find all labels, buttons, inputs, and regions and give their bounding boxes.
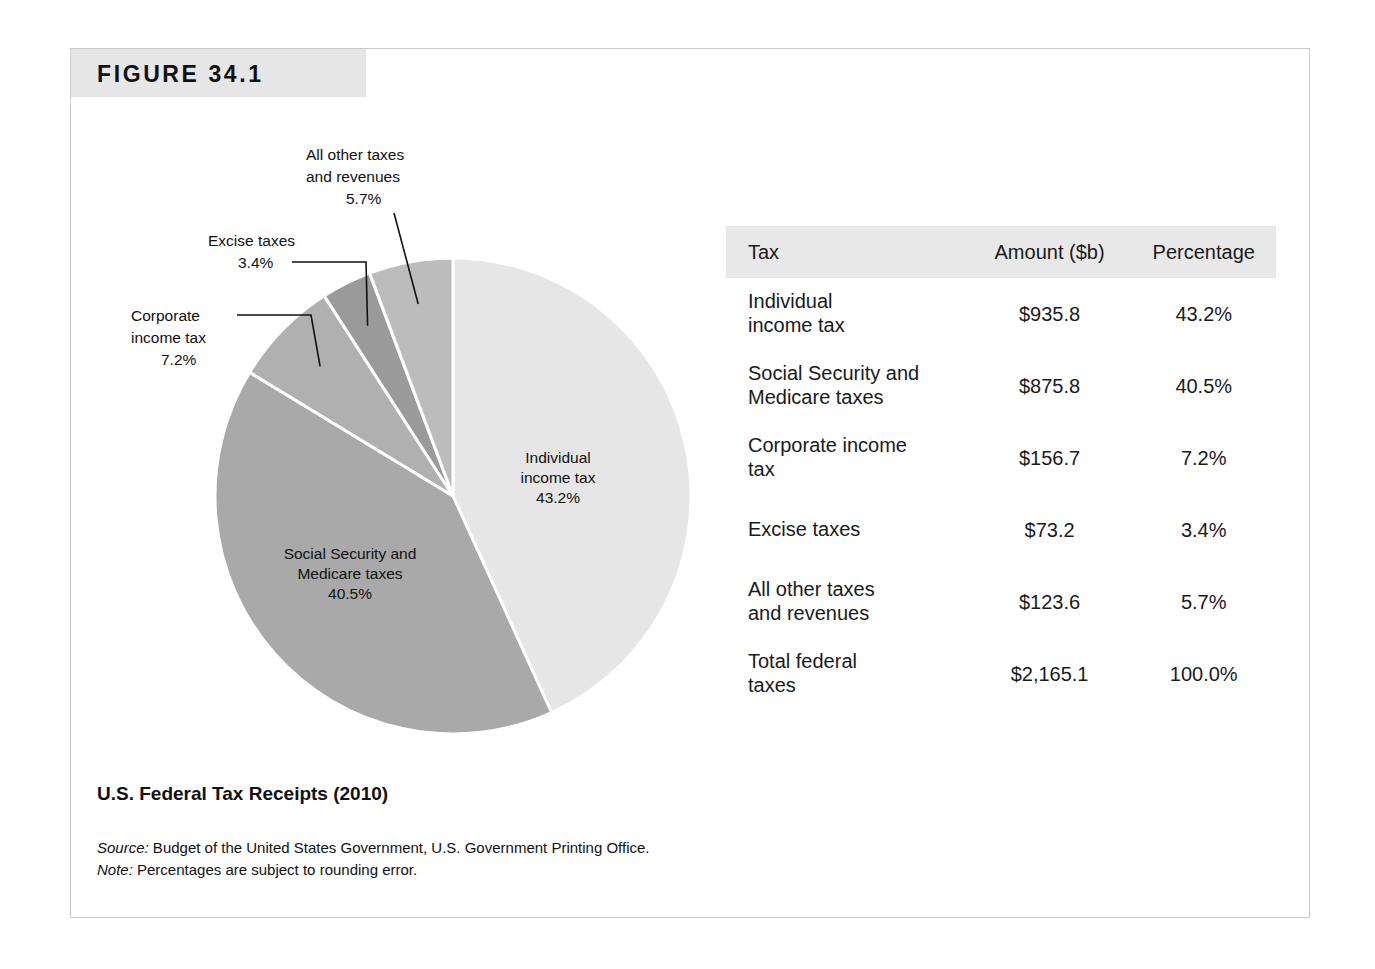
table-cell-amount: $73.2 xyxy=(968,519,1132,542)
table-cell-tax: All other taxesand revenues xyxy=(726,578,968,625)
table-cell-amount: $156.7 xyxy=(968,447,1132,470)
table-cell-percentage: 40.5% xyxy=(1131,375,1276,398)
table-cell-tax-line2: income tax xyxy=(748,314,968,338)
pie-label-social-line3: 40.5% xyxy=(328,585,372,602)
pie-label-social-line2: Medicare taxes xyxy=(297,565,402,582)
pie-callout-excise-line2: 3.4% xyxy=(238,254,274,271)
pie-callout-corporate-line2: income tax xyxy=(131,329,206,346)
table-cell-amount: $935.8 xyxy=(968,303,1132,326)
table-cell-tax: Corporate incometax xyxy=(726,434,968,481)
table-cell-percentage: 5.7% xyxy=(1131,591,1276,614)
table-cell-tax-line2: tax xyxy=(748,458,968,482)
figure-panel: FIGURE 34.1 Individual income tax 43.2% … xyxy=(70,48,1310,918)
tax-table: Tax Amount ($b) Percentage Individualinc… xyxy=(726,226,1276,710)
table-row: Individualincome tax$935.843.2% xyxy=(726,278,1276,350)
table-row: All other taxesand revenues$123.65.7% xyxy=(726,566,1276,638)
table-row: Corporate incometax$156.77.2% xyxy=(726,422,1276,494)
figure-caption: U.S. Federal Tax Receipts (2010) xyxy=(97,783,388,805)
table-cell-tax: Individualincome tax xyxy=(726,290,968,337)
table-cell-tax: Total federaltaxes xyxy=(726,650,968,697)
table-cell-amount: $875.8 xyxy=(968,375,1132,398)
table-row: Excise taxes$73.23.4% xyxy=(726,494,1276,566)
note-label: Note: xyxy=(97,861,133,878)
column-header-amount: Amount ($b) xyxy=(968,241,1132,264)
pie-chart-svg: Individual income tax 43.2% Social Secur… xyxy=(1,1,701,791)
table-cell-tax: Social Security andMedicare taxes xyxy=(726,362,968,409)
table-body: Individualincome tax$935.843.2%Social Se… xyxy=(726,278,1276,710)
pie-callout-corporate-line1: Corporate xyxy=(131,307,200,324)
table-cell-tax-line2: and revenues xyxy=(748,602,968,626)
table-cell-percentage: 43.2% xyxy=(1131,303,1276,326)
figure-notes: Source: Budget of the United States Gove… xyxy=(97,837,650,881)
table-cell-tax-line1: All other taxes xyxy=(748,578,968,602)
pie-label-individual-line3: 43.2% xyxy=(536,489,580,506)
note-text: Percentages are subject to rounding erro… xyxy=(133,861,417,878)
table-row: Social Security andMedicare taxes$875.84… xyxy=(726,350,1276,422)
table-cell-amount: $123.6 xyxy=(968,591,1132,614)
pie-callout-corporate-line3: 7.2% xyxy=(161,351,197,368)
table-cell-tax-line1: Total federal xyxy=(748,650,968,674)
table-header-row: Tax Amount ($b) Percentage xyxy=(726,226,1276,278)
table-row: Total federaltaxes$2,165.1100.0% xyxy=(726,638,1276,710)
table-cell-tax-line1: Individual xyxy=(748,290,968,314)
rounding-note: Note: Percentages are subject to roundin… xyxy=(97,859,650,881)
table-cell-tax-line1: Corporate income xyxy=(748,434,968,458)
pie-callout-allother-line3: 5.7% xyxy=(346,190,382,207)
pie-label-social-line1: Social Security and xyxy=(284,545,417,562)
pie-callout-allother-line1: All other taxes xyxy=(306,146,404,163)
table-cell-percentage: 7.2% xyxy=(1131,447,1276,470)
table-cell-tax-line1: Excise taxes xyxy=(748,518,968,542)
pie-label-individual-line2: income tax xyxy=(521,469,596,486)
pie-chart: Individual income tax 43.2% Social Secur… xyxy=(1,1,701,791)
table-cell-percentage: 100.0% xyxy=(1131,663,1276,686)
source-label: Source: xyxy=(97,839,149,856)
table-cell-percentage: 3.4% xyxy=(1131,519,1276,542)
pie-callout-excise-line1: Excise taxes xyxy=(208,232,295,249)
table-cell-tax-line2: taxes xyxy=(748,674,968,698)
source-text: Budget of the United States Government, … xyxy=(149,839,650,856)
column-header-percentage: Percentage xyxy=(1131,241,1276,264)
table-cell-tax-line1: Social Security and xyxy=(748,362,968,386)
source-note: Source: Budget of the United States Gove… xyxy=(97,837,650,859)
pie-label-individual-line1: Individual xyxy=(525,449,591,466)
pie-slices xyxy=(215,258,691,734)
table-cell-tax-line2: Medicare taxes xyxy=(748,386,968,410)
column-header-tax: Tax xyxy=(726,241,968,264)
table-cell-amount: $2,165.1 xyxy=(968,663,1132,686)
table-cell-tax: Excise taxes xyxy=(726,518,968,542)
pie-callout-allother-line2: and revenues xyxy=(306,168,400,185)
